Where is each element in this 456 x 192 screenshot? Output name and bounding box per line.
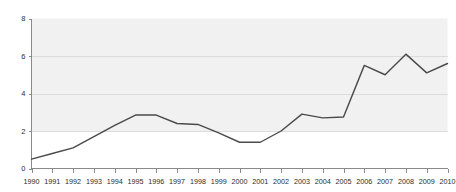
x-tick-label-1990: 1990: [24, 177, 40, 186]
y-tick-label-4: 4: [21, 89, 25, 98]
x-tick-label-1992: 1992: [65, 177, 81, 186]
x-tick-label-2005: 2005: [336, 177, 352, 186]
y-axis: [29, 19, 32, 170]
x-tick-label-2010: 2010: [440, 177, 456, 186]
x-tick-label-2009: 2009: [419, 177, 435, 186]
x-tick-label-1996: 1996: [148, 177, 164, 186]
x-tick-label-1995: 1995: [128, 177, 144, 186]
x-tick-label-1994: 1994: [107, 177, 123, 186]
x-tick-label-1993: 1993: [86, 177, 102, 186]
x-tick-label-1991: 1991: [44, 177, 60, 186]
x-tick-label-1999: 1999: [211, 177, 227, 186]
x-tick-label-2000: 2000: [232, 177, 248, 186]
chart-canvas: 02468 1990199119921993199419951996199719…: [0, 0, 456, 192]
x-tick-labels: 1990199119921993199419951996199719981999…: [24, 177, 456, 186]
line-chart: 02468 1990199119921993199419951996199719…: [0, 0, 456, 192]
x-axis: [32, 169, 449, 173]
y-tick-label-2: 2: [21, 127, 25, 136]
x-tick-label-2006: 2006: [356, 177, 372, 186]
y-tick-label-6: 6: [21, 52, 25, 61]
y-tick-labels: 02468: [21, 14, 25, 173]
x-tick-label-2004: 2004: [315, 177, 331, 186]
y-tick-label-8: 8: [21, 14, 25, 23]
x-tick-label-2003: 2003: [294, 177, 310, 186]
x-tick-label-2001: 2001: [252, 177, 268, 186]
y-tick-label-0: 0: [21, 164, 25, 173]
x-tick-label-2008: 2008: [398, 177, 414, 186]
x-tick-label-1997: 1997: [169, 177, 185, 186]
x-tick-label-2007: 2007: [377, 177, 393, 186]
x-tick-label-2002: 2002: [273, 177, 289, 186]
x-tick-label-1998: 1998: [190, 177, 206, 186]
